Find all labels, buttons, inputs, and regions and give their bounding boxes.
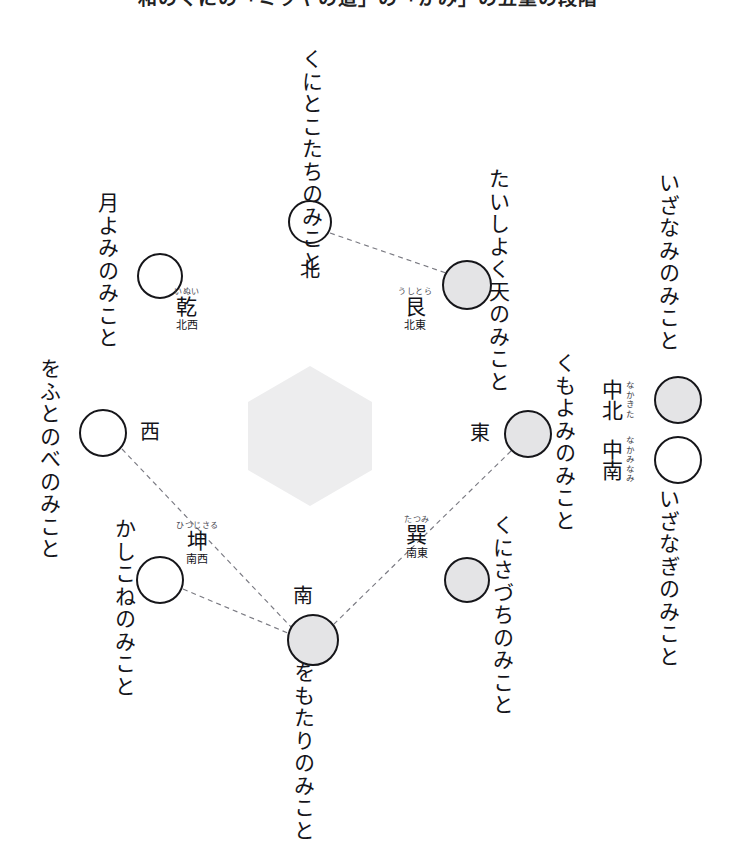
trigram-label-southeast: たつみ 巽 南東 bbox=[404, 516, 430, 560]
direction-mark-south: 南 bbox=[293, 580, 313, 609]
deity-label-southwest: かしこねのみこと bbox=[113, 518, 134, 698]
node-east[interactable] bbox=[504, 410, 552, 458]
trigram-kanji-northeast: 艮 bbox=[398, 297, 432, 318]
direction-mark-west: 西 bbox=[140, 416, 160, 445]
center-label-south-kanji: 中南 bbox=[600, 439, 622, 481]
deity-label-east: くもよみのみこと bbox=[553, 352, 574, 532]
trigram-gloss-northwest: 北西 bbox=[174, 320, 200, 332]
node-southeast[interactable] bbox=[444, 557, 490, 603]
trigram-gloss-southeast: 南東 bbox=[404, 548, 430, 560]
trigram-kanji-southeast: 巽 bbox=[404, 525, 430, 546]
node-center-south[interactable] bbox=[654, 436, 702, 484]
trigram-label-northwest: いぬい 乾 北西 bbox=[174, 288, 200, 332]
direction-mark-north: 北 bbox=[300, 254, 320, 283]
trigram-gloss-southwest: 南西 bbox=[176, 554, 219, 566]
deity-label-center-north: いざなみのみこと bbox=[657, 172, 678, 352]
deity-label-southeast: くにさづちのみこと bbox=[491, 514, 512, 717]
center-label-north-kanji: 中北 bbox=[600, 379, 622, 421]
node-south[interactable] bbox=[287, 614, 339, 666]
trigram-gloss-northeast: 北東 bbox=[398, 320, 432, 332]
center-label-south-ruby: なかみなみ bbox=[623, 436, 633, 484]
trigram-label-northeast: うしとら 艮 北東 bbox=[398, 288, 432, 332]
node-northeast[interactable] bbox=[442, 260, 492, 310]
trigram-kanji-northwest: 乾 bbox=[174, 297, 200, 318]
deity-label-northwest: 月よみのみこと bbox=[96, 192, 117, 350]
center-hexagon bbox=[248, 366, 372, 506]
center-label-south: 中南 なかみなみ bbox=[600, 436, 633, 484]
edge-north-northeast bbox=[330, 233, 446, 273]
node-west[interactable] bbox=[79, 409, 127, 457]
deity-label-south: をもたりのみこと bbox=[292, 662, 313, 842]
direction-mark-east: 東 bbox=[470, 417, 490, 446]
center-label-north-ruby: なかきた bbox=[623, 381, 633, 419]
deity-label-west: をふとのべのみこと bbox=[38, 358, 59, 561]
trigram-kanji-southwest: 坤 bbox=[176, 531, 219, 552]
deity-label-northeast: たいしよく天のみこと bbox=[487, 168, 508, 393]
node-center-north[interactable] bbox=[654, 376, 702, 424]
trigram-label-southwest: ひつじさる 坤 南西 bbox=[176, 522, 219, 566]
center-label-north: 中北 なかきた bbox=[600, 376, 633, 424]
deity-label-north: くにとこたちのみこと bbox=[300, 48, 321, 273]
deity-label-center-south: いざなぎのみこと bbox=[657, 488, 678, 668]
edge-southwest-south bbox=[183, 589, 290, 634]
